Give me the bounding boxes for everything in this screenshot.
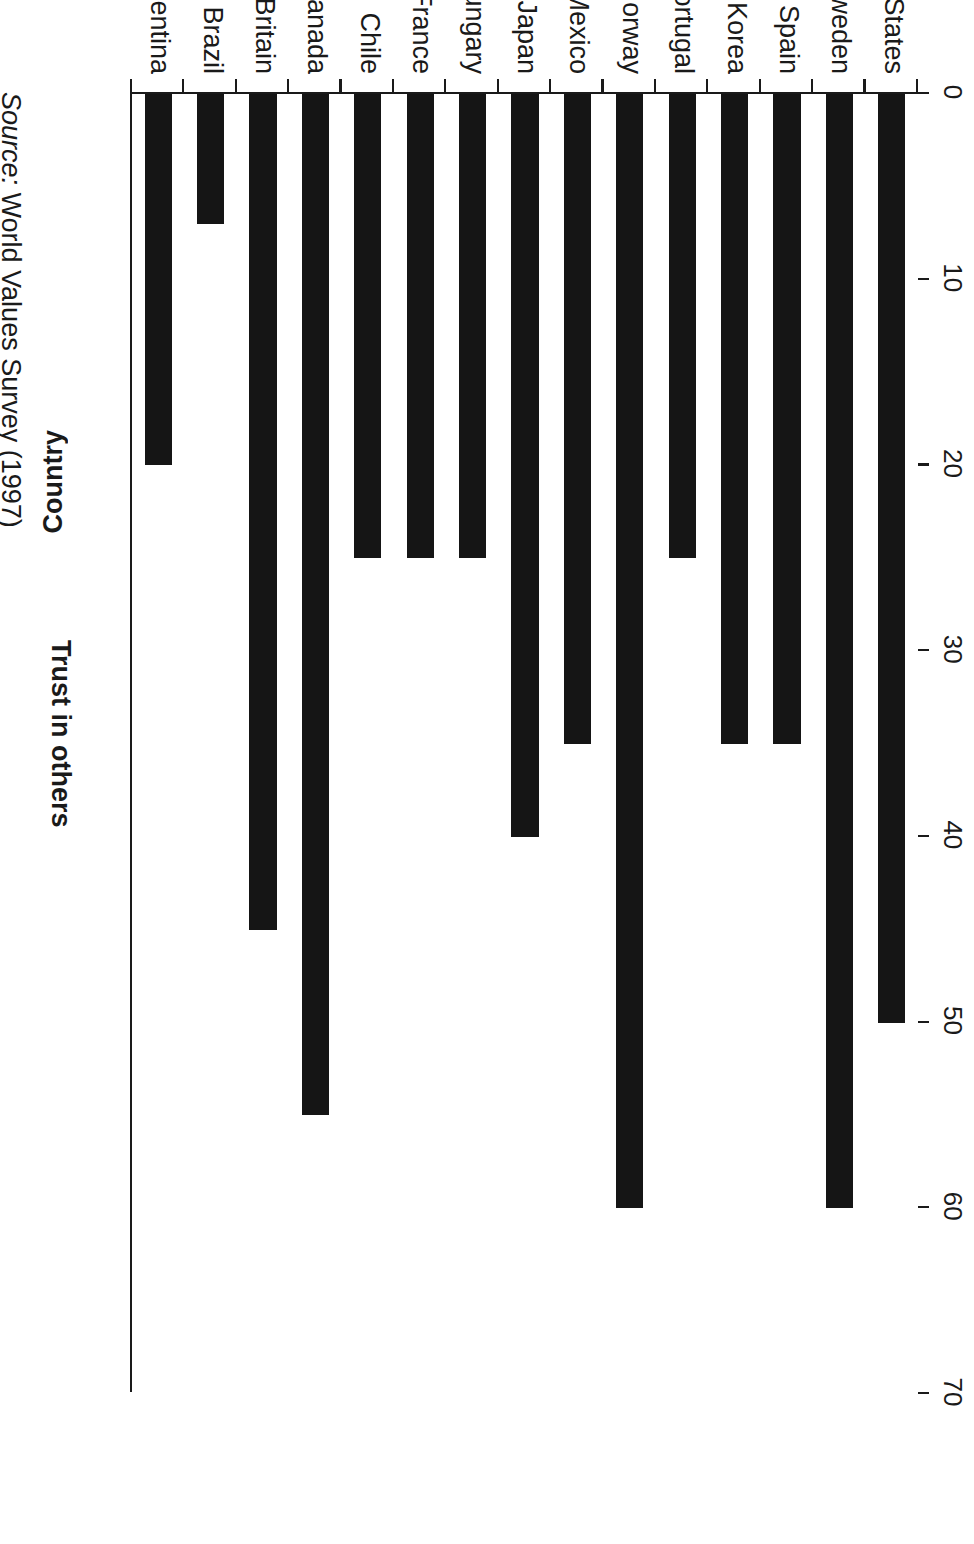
source-label: Source:: [0, 92, 26, 185]
category-tick-mark: [916, 79, 918, 92]
bar: [878, 94, 905, 1023]
bar: [249, 94, 276, 930]
bar: [773, 94, 800, 744]
category-tick-mark: [863, 79, 865, 92]
category-tick-mark: [759, 79, 761, 92]
plot-area: 010203040506070 United StatesSwedenSpain…: [132, 92, 918, 1392]
category-axis-title: Country: [38, 430, 69, 534]
bar: [459, 94, 486, 558]
category-label: Japan: [513, 0, 540, 74]
category-tick-mark: [339, 79, 341, 92]
category-label: Canada: [303, 0, 330, 74]
bar: [511, 94, 538, 837]
bar: [616, 94, 643, 1208]
value-tick-mark: [918, 92, 929, 94]
bar: [302, 94, 329, 1115]
value-tick-label: 70: [940, 1370, 966, 1414]
value-tick-mark: [918, 463, 929, 465]
bar: [407, 94, 434, 558]
category-tick-mark: [130, 79, 132, 92]
category-tick-mark: [811, 79, 813, 92]
category-axis-line: [130, 92, 132, 1392]
category-label: Norway: [618, 0, 645, 74]
category-tick-mark: [235, 79, 237, 92]
category-tick-mark: [549, 79, 551, 92]
category-tick-mark: [444, 79, 446, 92]
category-tick-mark: [182, 79, 184, 92]
bar: [354, 94, 381, 558]
value-tick-mark: [918, 1206, 929, 1208]
bar: [145, 94, 172, 465]
value-tick-label: 60: [940, 1184, 966, 1228]
category-label: Mexico: [565, 0, 592, 74]
bar: [669, 94, 696, 558]
value-tick-mark: [918, 835, 929, 837]
value-tick-label: 10: [940, 256, 966, 300]
value-tick-label: 0: [940, 70, 966, 114]
value-tick-label: 50: [940, 999, 966, 1043]
value-axis-title: Trust in others: [45, 640, 76, 828]
value-tick-label: 40: [940, 813, 966, 857]
category-tick-mark: [601, 79, 603, 92]
bar: [564, 94, 591, 744]
category-label: Brazil: [199, 6, 226, 74]
category-label: Hungary: [461, 0, 488, 74]
category-label: Spain: [775, 5, 802, 74]
bar: [721, 94, 748, 744]
value-tick-mark: [918, 649, 929, 651]
source-text: World Values Survey (1997): [0, 193, 26, 528]
category-tick-mark: [706, 79, 708, 92]
value-tick-label: 30: [940, 627, 966, 671]
value-tick-mark: [918, 1021, 929, 1023]
category-label: Sweden: [827, 0, 854, 74]
source-note: Source: World Values Survey (1997): [0, 92, 26, 528]
chart-figure: 010203040506070 United StatesSwedenSpain…: [0, 0, 974, 1544]
category-label: Chile: [356, 12, 383, 74]
category-tick-mark: [497, 79, 499, 92]
category-label: Argentina: [146, 0, 173, 74]
value-tick-mark: [918, 278, 929, 280]
value-tick-mark: [918, 1392, 929, 1394]
bar: [197, 94, 224, 224]
category-tick-mark: [287, 79, 289, 92]
category-label: Portugal: [670, 0, 697, 74]
category-label: Britain: [251, 0, 278, 74]
category-label: France: [408, 0, 435, 74]
category-label: South Korea: [723, 0, 750, 74]
category-tick-mark: [654, 79, 656, 92]
category-tick-mark: [392, 79, 394, 92]
category-label: United States: [880, 0, 907, 74]
value-tick-label: 20: [940, 441, 966, 485]
bar: [826, 94, 853, 1208]
